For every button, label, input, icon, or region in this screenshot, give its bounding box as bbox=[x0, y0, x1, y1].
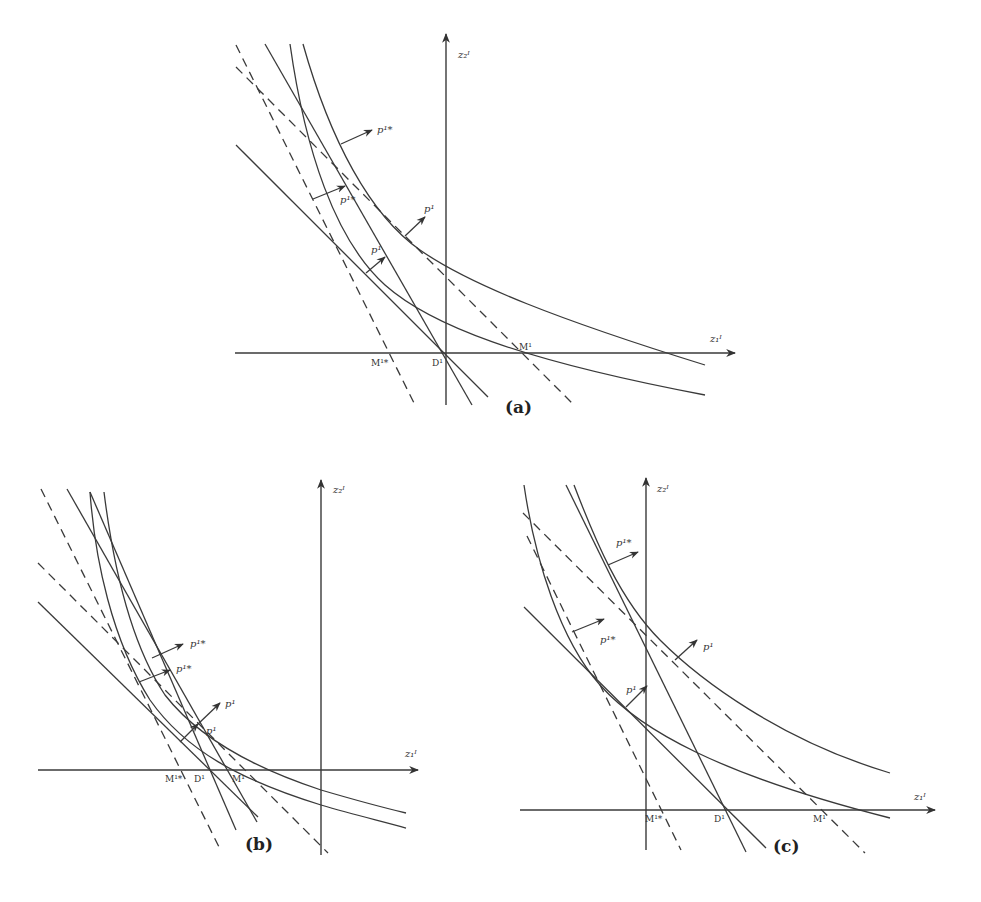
point-m-star: M¹* bbox=[165, 774, 183, 784]
panel-a: z₂ᴵ z₁ᴵ p¹* p¹* p¹ p¹ M¹* D¹ M¹ (a) bbox=[235, 34, 735, 417]
solid-line-shallow bbox=[236, 145, 488, 397]
arrow-p-upper bbox=[197, 703, 220, 725]
x-axis-label: z₁ᴵ bbox=[913, 791, 926, 802]
panel-b: z₂ᴵ z₁ᴵ p¹* p¹* p¹ p¹ M¹* D¹ M¹ (b) bbox=[38, 480, 418, 855]
dashed-line-steep bbox=[236, 45, 415, 405]
dashed-line-shallow bbox=[523, 513, 865, 853]
y-axis-label: z₂ᴵ bbox=[332, 484, 345, 495]
label-p-star-upper: p¹* bbox=[190, 638, 205, 649]
lower-curve bbox=[90, 492, 406, 828]
point-d: D¹ bbox=[714, 814, 725, 824]
upper-curve bbox=[104, 492, 406, 813]
label-p-upper: p¹ bbox=[424, 203, 434, 214]
label-p-lower: p¹ bbox=[371, 244, 381, 255]
label-p-star-lower: p¹* bbox=[600, 634, 615, 645]
label-p-star-lower: p¹* bbox=[176, 663, 191, 674]
label-p-lower: p¹ bbox=[626, 684, 636, 695]
arrow-p-upper bbox=[675, 640, 697, 660]
solid-line-shallow bbox=[38, 602, 258, 817]
label-p-star-upper: p¹* bbox=[377, 124, 392, 135]
arrow-p-star-upper bbox=[341, 130, 372, 144]
panel-c: z₂ᴵ z₁ᴵ p¹* p¹* p¹ p¹ M¹* D¹ M¹ (c) bbox=[520, 478, 935, 856]
economics-diagram-figure: z₂ᴵ z₁ᴵ p¹* p¹* p¹ p¹ M¹* D¹ M¹ (a) z₂ᴵ … bbox=[0, 0, 981, 902]
y-axis-label: z₂ᴵ bbox=[457, 49, 470, 60]
label-p-star-upper: p¹* bbox=[616, 537, 631, 548]
point-d: D¹ bbox=[194, 774, 205, 784]
x-axis-label: z₁ᴵ bbox=[709, 333, 722, 344]
arrow-p-lower bbox=[366, 257, 385, 273]
dashed-line-shallow bbox=[236, 67, 575, 406]
label-p-lower: p¹ bbox=[206, 725, 216, 736]
point-m-star: M¹* bbox=[645, 814, 663, 824]
caption-a: (a) bbox=[505, 397, 532, 417]
point-m: M¹ bbox=[813, 814, 826, 824]
upper-curve bbox=[303, 44, 705, 365]
label-p-upper: p¹ bbox=[225, 698, 235, 709]
caption-c: (c) bbox=[773, 836, 799, 856]
solid-line-shallow bbox=[524, 607, 766, 848]
dashed-line-steep bbox=[527, 536, 681, 850]
solid-line-steep bbox=[566, 485, 746, 852]
arrow-p-star-upper bbox=[608, 552, 638, 565]
caption-b: (b) bbox=[245, 834, 273, 854]
point-m-star: M¹* bbox=[371, 358, 389, 368]
point-m: M¹ bbox=[232, 774, 245, 784]
label-p-upper: p¹ bbox=[703, 641, 713, 652]
y-axis-label: z₂ᴵ bbox=[656, 483, 669, 494]
arrow-p-upper bbox=[405, 217, 425, 236]
lower-curve bbox=[290, 44, 705, 395]
dashed-line-steep bbox=[41, 489, 221, 851]
arrow-p-star-lower bbox=[572, 619, 604, 632]
point-d: D¹ bbox=[432, 358, 443, 368]
label-p-star-lower: p¹* bbox=[340, 194, 355, 205]
point-m: M¹ bbox=[519, 342, 532, 352]
x-axis-label: z₁ᴵ bbox=[404, 748, 417, 759]
arrow-p-lower bbox=[180, 724, 198, 742]
